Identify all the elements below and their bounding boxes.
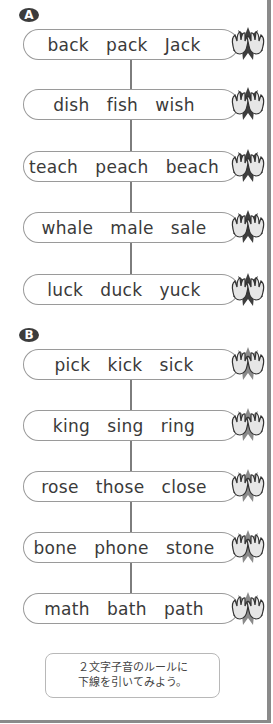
word-row-a3: teach peach beach (23, 151, 239, 182)
word-row-text: back pack Jack (47, 35, 200, 55)
clapping-hands-icon (228, 346, 268, 382)
word-row-text: king sing ring (53, 416, 195, 436)
word-row-b1: pick kick sick (23, 349, 239, 380)
word-row-a5: luck duck yuck (23, 274, 239, 305)
word-row-text: teach peach beach (29, 157, 219, 177)
word-row-text: dish fish wish (53, 95, 195, 115)
clapping-hands-icon (228, 591, 268, 627)
word-row-text: pick kick sick (54, 355, 193, 375)
section-a-badge: A (19, 8, 39, 22)
instruction-line-2: 下線を引いてみよう。 (46, 675, 219, 690)
clapping-hands-icon (228, 148, 268, 184)
clapping-hands-icon (228, 209, 268, 245)
word-row-text: whale male sale (41, 218, 206, 238)
clapping-hands-icon (228, 468, 268, 504)
word-row-a1: back pack Jack (23, 29, 239, 60)
clapping-hands-icon (228, 529, 268, 565)
clapping-hands-icon (228, 26, 268, 62)
clapping-hands-icon (228, 272, 268, 308)
word-row-b3: rose those close (23, 471, 239, 502)
instruction-note: ２文字子音のルールに 下線を引いてみよう。 (45, 653, 220, 698)
word-row-b4: bone phone stone (23, 532, 239, 563)
page-bottom-border (0, 720, 271, 723)
section-b-badge: B (19, 328, 39, 342)
word-row-a4: whale male sale (23, 212, 239, 243)
instruction-line-1: ２文字子音のルールに (46, 660, 219, 675)
clapping-hands-icon (228, 407, 268, 443)
word-row-text: rose those close (41, 477, 207, 497)
word-row-text: bone phone stone (33, 538, 214, 558)
word-row-a2: dish fish wish (23, 89, 239, 120)
word-row-b2: king sing ring (23, 410, 239, 441)
word-row-text: luck duck yuck (47, 280, 200, 300)
word-row-b5: math bath path (23, 593, 239, 624)
clapping-hands-icon (228, 86, 268, 122)
word-row-text: math bath path (44, 599, 204, 619)
